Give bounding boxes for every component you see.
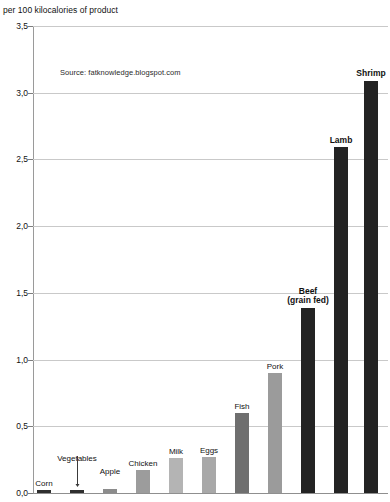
y-tick-label: 1,5 — [3, 289, 28, 298]
bar-label-line: Apple — [100, 467, 120, 476]
bar-label: Pork — [267, 362, 283, 371]
y-tick-mark — [28, 426, 33, 427]
bar — [37, 490, 51, 493]
bar-label-line: Eggs — [200, 446, 218, 455]
bar-label: Shrimp — [356, 69, 385, 78]
y-tick-mark — [28, 293, 33, 294]
bar-label-line: Corn — [35, 479, 52, 488]
bar-label: Chicken — [129, 459, 158, 468]
y-tick-label: 0,0 — [3, 489, 28, 498]
y-tick-mark — [28, 226, 33, 227]
bar-label: Lamb — [330, 136, 353, 145]
chart-title: per 100 kilocalories of product — [3, 5, 118, 15]
y-tick-mark — [28, 493, 33, 494]
source-annotation: Source: fatknowledge.blogspot.com — [60, 68, 180, 77]
y-tick-label: 1,0 — [3, 356, 28, 365]
y-tick-label: 2,0 — [3, 222, 28, 231]
bar-chart: per 100 kilocalories of product 0,00,51,… — [0, 0, 390, 502]
bar-label: Fish — [234, 402, 249, 411]
bar-label-line: Pork — [267, 362, 283, 371]
bar-label: Milk — [169, 447, 183, 456]
bar-label: Beef(grain fed) — [287, 287, 329, 305]
y-tick-mark — [28, 159, 33, 160]
bar — [235, 413, 249, 493]
bar-label-line: Lamb — [330, 136, 353, 145]
bar — [334, 147, 348, 493]
gridline-0 — [33, 493, 388, 494]
leader-line — [77, 456, 78, 484]
bar-label-line: Milk — [169, 447, 183, 456]
bar-label: Apple — [100, 467, 120, 476]
bar — [268, 373, 282, 493]
bar-label-line: (grain fed) — [287, 296, 329, 305]
bar-label-line: Chicken — [129, 459, 158, 468]
y-tick-label: 2,5 — [3, 155, 28, 164]
bar — [364, 81, 378, 493]
y-tick-label: 0,5 — [3, 422, 28, 431]
y-tick-mark — [28, 93, 33, 94]
bar — [301, 308, 315, 493]
y-tick-label: 3,0 — [3, 89, 28, 98]
plot-area: CornVegetablesAppleChickenMilkEggsFishPo… — [33, 26, 388, 493]
y-tick-mark — [28, 360, 33, 361]
bar — [169, 458, 183, 493]
bar — [70, 490, 84, 493]
bar-label: Eggs — [200, 446, 218, 455]
bar — [103, 489, 117, 493]
gridline-3 — [33, 93, 388, 94]
gridline-3-5 — [33, 26, 388, 27]
bar-label-line: Shrimp — [356, 69, 385, 78]
bar-label-line: Fish — [234, 402, 249, 411]
y-tick-mark — [28, 26, 33, 27]
y-tick-label: 3,5 — [3, 22, 28, 31]
bar-label: Corn — [35, 479, 52, 488]
bar — [136, 470, 150, 493]
leader-arrowhead — [76, 484, 80, 487]
bar — [202, 457, 216, 493]
